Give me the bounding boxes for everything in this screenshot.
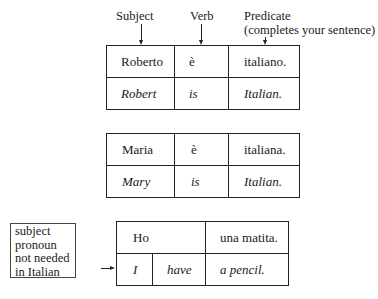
note-line: subject xyxy=(15,225,75,239)
italian-predicate: italiano. xyxy=(244,55,286,69)
example-table-maria: Maria è italiana. Mary is Italian. xyxy=(106,133,300,198)
col-divider xyxy=(152,254,153,285)
italian-subject-verb: Ho xyxy=(133,231,149,245)
italian-verb: è xyxy=(191,143,197,157)
note-line: pronoun xyxy=(15,239,75,253)
note-arrow-shaft xyxy=(101,268,110,269)
col-divider xyxy=(228,46,229,109)
english-verb: have xyxy=(167,263,192,277)
italian-subject: Maria xyxy=(122,143,153,157)
col-divider xyxy=(205,222,206,285)
note-line: in Italian xyxy=(15,266,75,280)
subject-header: Subject xyxy=(116,9,154,23)
col-divider xyxy=(174,46,175,109)
row-divider xyxy=(107,165,299,166)
col-divider xyxy=(228,134,229,197)
english-predicate: Italian. xyxy=(244,87,282,101)
italian-predicate: una matita. xyxy=(220,231,278,245)
row-divider xyxy=(117,253,288,254)
note-box: subject pronoun not needed in Italian xyxy=(10,223,76,278)
note-line: not needed xyxy=(15,252,75,266)
verb-header: Verb xyxy=(190,9,214,23)
example-table-roberto: Roberto è italiano. Robert is Italian. xyxy=(106,45,300,110)
italian-verb: è xyxy=(189,55,195,69)
english-subject: Robert xyxy=(121,87,156,101)
english-predicate: Italian. xyxy=(244,175,282,189)
italian-predicate: italiana. xyxy=(244,143,286,157)
italian-subject: Roberto xyxy=(121,55,163,69)
english-verb: is xyxy=(189,87,198,101)
subject-arrow-shaft xyxy=(141,24,142,40)
predicate-subheader: (completes your sentence) xyxy=(244,23,375,37)
verb-arrow-shaft xyxy=(201,24,202,40)
example-table-ho: Ho una matita. I have a pencil. xyxy=(116,221,289,286)
note-arrow-icon xyxy=(110,266,115,270)
english-subject: I xyxy=(133,263,137,277)
col-divider xyxy=(174,134,175,197)
english-subject: Mary xyxy=(122,175,150,189)
predicate-header: Predicate xyxy=(244,9,291,23)
row-divider xyxy=(107,77,299,78)
english-verb: is xyxy=(191,175,200,189)
english-predicate: a pencil. xyxy=(220,263,265,277)
